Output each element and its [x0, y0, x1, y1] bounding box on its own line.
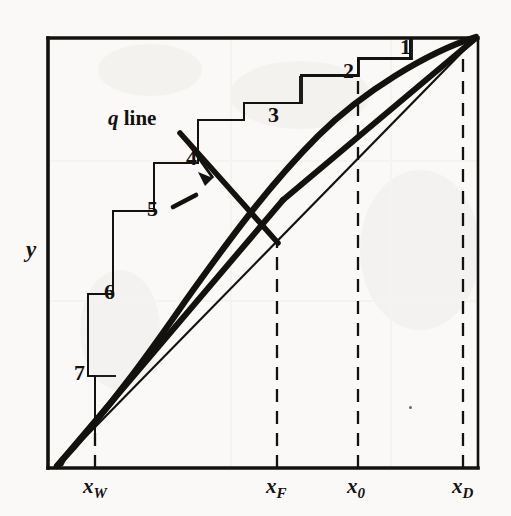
stage-label-7: 7: [74, 362, 85, 384]
x-tick-base-xf: x: [266, 474, 277, 498]
q-line-label: q line: [108, 108, 156, 129]
y-axis-label: y: [26, 238, 36, 261]
scan-speck: [409, 406, 412, 409]
x-tick-sub-x0: 0: [358, 485, 366, 501]
x-tick-label-xd: xD: [452, 476, 473, 501]
stage-label-3: 3: [268, 104, 279, 126]
origin-convergence: [57, 448, 72, 468]
x-tick-label-xf: xF: [266, 476, 287, 501]
x-tick-label-xw: xW: [83, 476, 107, 501]
x-tick-sub-xd: D: [463, 485, 474, 501]
stage-label-1: 1: [400, 36, 411, 58]
stage-label-4: 4: [186, 147, 197, 169]
mccabe-thiele-figure: y q line 1 2 3 4 5 6 7 xW xF x0 xD: [0, 0, 511, 516]
diagram-canvas: [0, 0, 511, 516]
x-tick-base-x0: x: [347, 474, 358, 498]
stage-label-2: 2: [343, 60, 354, 82]
x-tick-base-xd: x: [452, 474, 463, 498]
x-tick-label-x0: x0: [347, 476, 365, 501]
x-tick-sub-xw: W: [94, 485, 107, 501]
stage-label-5: 5: [147, 198, 158, 220]
x-tick-sub-xf: F: [277, 485, 287, 501]
stage-label-6: 6: [104, 281, 115, 303]
q-line-label-q: q: [108, 106, 119, 130]
x-tick-base-xw: x: [83, 474, 94, 498]
q-line-label-word: line: [124, 106, 157, 130]
